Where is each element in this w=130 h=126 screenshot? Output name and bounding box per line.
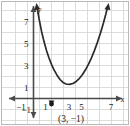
y-tick-label-3: 3 — [24, 61, 29, 71]
parabola-curve — [37, 7, 108, 85]
x-tick-label-neg1: −1 — [16, 102, 26, 112]
x-tick-label-1: 1 — [43, 102, 48, 112]
y-tick-label-5: 5 — [24, 39, 29, 49]
graph-figure: 7 5 3 1 −1 −1 1 3 5 7 y x (3, −1) — [0, 0, 130, 126]
x-tick-label-3: 3 — [67, 102, 72, 112]
x-tick-label-5: 5 — [79, 102, 84, 112]
coordinate-plane: 7 5 3 1 −1 −1 1 3 5 7 y x (3, −1) — [0, 0, 130, 126]
y-axis-arrow-down — [31, 112, 37, 118]
x-tick-label-7: 7 — [109, 102, 114, 112]
vertex-coordinate-label: (3, −1) — [58, 114, 84, 125]
y-tick-label-1: 1 — [24, 83, 29, 93]
x-axis-arrow-left — [9, 96, 15, 102]
curve-arrow-right — [105, 3, 111, 10]
x-axis-label: x — [120, 95, 125, 104]
y-tick-label-7: 7 — [24, 17, 29, 27]
y-axis-label: y — [37, 5, 42, 14]
